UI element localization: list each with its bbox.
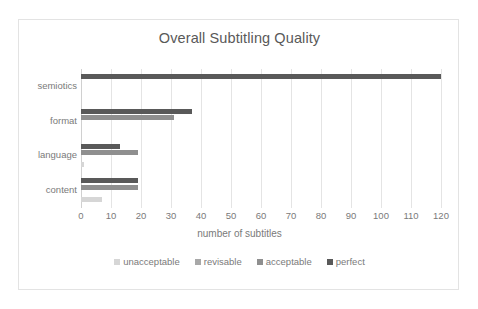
y-axis-label-semiotics: semiotics <box>19 80 77 91</box>
bar-language-unacceptable <box>81 162 84 167</box>
plot-area <box>81 69 441 208</box>
legend-label-revisable: revisable <box>204 256 242 267</box>
bar-format-perfect <box>81 109 192 114</box>
bar-format-acceptable <box>81 115 174 120</box>
x-tick-30: 30 <box>166 210 177 221</box>
x-axis-title: number of subtitles <box>19 228 460 239</box>
x-tick-20: 20 <box>136 210 147 221</box>
legend-item-perfect[interactable]: perfect <box>327 256 365 267</box>
chart-title: Overall Subtitling Quality <box>19 30 460 46</box>
gridline-120 <box>441 69 442 208</box>
x-tick-70: 70 <box>286 210 297 221</box>
legend-item-revisable[interactable]: revisable <box>195 256 242 267</box>
bar-group-semiotics <box>81 69 441 104</box>
x-axis-tick-labels: 0102030405060708090100110120 <box>81 210 441 224</box>
legend-item-acceptable[interactable]: acceptable <box>257 256 312 267</box>
legend-item-unacceptable[interactable]: unacceptable <box>114 256 180 267</box>
bar-content-acceptable <box>81 185 138 190</box>
y-axis-label-format: format <box>19 115 77 126</box>
chart-legend: unacceptablerevisableacceptableperfect <box>19 256 460 267</box>
x-tick-100: 100 <box>373 210 389 221</box>
bar-content-perfect <box>81 178 138 183</box>
legend-swatch-icon-acceptable <box>257 259 263 265</box>
bar-semiotics-perfect <box>81 74 441 79</box>
x-tick-10: 10 <box>106 210 117 221</box>
y-axis-label-content: content <box>19 184 77 195</box>
legend-swatch-icon-unacceptable <box>114 259 120 265</box>
x-tick-40: 40 <box>196 210 207 221</box>
x-tick-110: 110 <box>403 210 418 221</box>
legend-label-unacceptable: unacceptable <box>123 256 180 267</box>
x-tick-50: 50 <box>226 210 237 221</box>
legend-label-acceptable: acceptable <box>266 256 312 267</box>
bar-language-acceptable <box>81 150 138 155</box>
x-tick-0: 0 <box>78 210 83 221</box>
y-axis-label-language: language <box>19 149 77 160</box>
x-tick-80: 80 <box>316 210 327 221</box>
x-tick-60: 60 <box>256 210 267 221</box>
legend-swatch-icon-revisable <box>195 259 201 265</box>
legend-swatch-icon-perfect <box>327 259 333 265</box>
bar-group-language <box>81 139 441 174</box>
bar-content-unacceptable <box>81 197 102 202</box>
chart-frame: Overall Subtitling Quality semioticsform… <box>18 19 459 290</box>
x-tick-120: 120 <box>433 210 449 221</box>
bar-group-content <box>81 173 441 208</box>
bar-group-format <box>81 104 441 139</box>
bar-language-perfect <box>81 144 120 149</box>
legend-label-perfect: perfect <box>336 256 365 267</box>
x-tick-90: 90 <box>346 210 357 221</box>
